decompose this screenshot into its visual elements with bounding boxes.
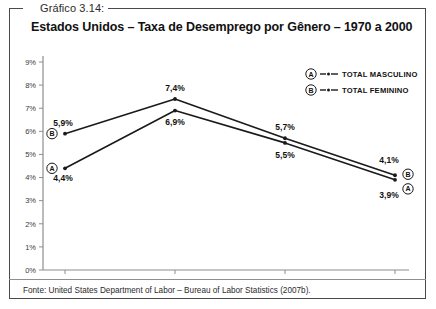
y-axis-tick-label: 9% — [25, 58, 36, 67]
series-badge-b-2000: B — [403, 169, 413, 179]
footer-divider — [9, 279, 426, 280]
y-axis-tick-label: 6% — [25, 127, 36, 136]
y-axis-tick-label: 7% — [25, 104, 36, 113]
frame-border-top-left — [9, 8, 23, 9]
y-axis-tick-label: 2% — [25, 220, 36, 229]
series-line-a — [65, 111, 395, 180]
frame-border-bottom — [9, 298, 426, 299]
data-point-label: 4,1% — [379, 155, 399, 165]
series-badge-a-1970: A — [47, 163, 57, 173]
y-axis-tick-label: 8% — [25, 81, 36, 90]
data-point-label: 5,9% — [53, 118, 73, 128]
data-point-label: 4,4% — [53, 173, 73, 183]
legend-item-b: BTOTAL FEMININO — [306, 85, 409, 95]
y-axis-tick-label: 4% — [25, 173, 36, 182]
svg-text:B: B — [49, 130, 54, 137]
data-point — [283, 136, 287, 140]
data-point-label: 5,7% — [275, 122, 295, 132]
svg-text:A: A — [308, 71, 313, 78]
figure-frame: Gráfico 3.14: Estados Unidos – Taxa de D… — [9, 8, 426, 299]
data-point — [63, 166, 67, 170]
series-badge-b-1970: B — [47, 128, 57, 138]
svg-text:A: A — [405, 185, 410, 192]
data-point — [283, 141, 287, 145]
data-point — [393, 178, 397, 182]
data-point-label: 6,9% — [165, 117, 185, 127]
frame-border-top-right — [99, 8, 426, 9]
svg-text:A: A — [49, 165, 54, 172]
data-point — [173, 97, 177, 101]
chart-plot-area: 0%1%2%3%4%5%6%7%8%9%19701980199020004,4%… — [9, 48, 426, 280]
legend-item-a: ATOTAL MASCULINO — [306, 69, 418, 79]
figure-caption-label: Gráfico 3.14: — [36, 2, 108, 14]
svg-text:B: B — [308, 87, 313, 94]
series-badge-a-2000: A — [403, 184, 413, 194]
data-point — [63, 132, 67, 136]
y-axis-tick-label: 5% — [25, 150, 36, 159]
y-axis-tick-label: 1% — [25, 243, 36, 252]
y-axis-tick-label: 3% — [25, 196, 36, 205]
y-axis-tick-label: 0% — [25, 266, 36, 275]
svg-text:B: B — [405, 171, 410, 178]
data-point-label: 7,4% — [165, 83, 185, 93]
chart-title: Estados Unidos – Taxa de Desemprego por … — [31, 20, 412, 34]
data-point-label: 5,5% — [275, 150, 295, 160]
data-point-label: 3,9% — [379, 190, 399, 200]
data-point — [393, 173, 397, 177]
legend-label: TOTAL MASCULINO — [342, 70, 418, 79]
legend-label: TOTAL FEMININO — [342, 86, 409, 95]
source-note: Fonte: United States Department of Labor… — [23, 286, 311, 295]
data-point — [173, 109, 177, 113]
unemployment-line-chart: 0%1%2%3%4%5%6%7%8%9%19701980199020004,4%… — [9, 48, 426, 280]
